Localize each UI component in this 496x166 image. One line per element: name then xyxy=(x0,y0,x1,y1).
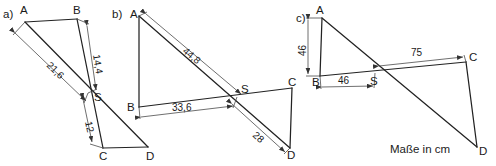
case-b-dim-sd: 28 xyxy=(251,129,267,145)
case-c-label: c) xyxy=(296,12,306,24)
case-c-dim-bs: 46 xyxy=(338,75,350,86)
case-a-segment-cd xyxy=(103,147,148,148)
diagram-canvas: a) A B S C D 21,6 14,4 12 b xyxy=(0,0,496,166)
case-b-point-d: D xyxy=(287,149,295,161)
case-a-dim-as: 21,6 xyxy=(45,60,67,82)
case-b-dim-as: 44,8 xyxy=(181,45,203,66)
case-c-dim-sc: 75 xyxy=(411,47,423,58)
case-a-point-b: B xyxy=(73,4,81,16)
case-a-point-a: A xyxy=(20,4,28,16)
case-b-ext-a xyxy=(139,12,147,16)
case-c-dim-line-sc xyxy=(379,57,463,66)
case-c-point-b: B xyxy=(312,76,320,88)
case-a-ext-c xyxy=(90,144,103,148)
case-c-group: c) A B S C D 46 46 75 xyxy=(296,4,487,157)
case-c-ext-b2 xyxy=(320,76,321,89)
case-c-point-a: A xyxy=(316,4,324,16)
case-a-label: a) xyxy=(3,8,13,20)
case-a-dim-sc: 12 xyxy=(83,120,96,134)
case-b-label: b) xyxy=(112,8,122,20)
case-b-ext-b xyxy=(139,107,140,119)
case-b-segment-bc-through-s xyxy=(139,88,292,107)
case-b-segment-cd xyxy=(290,88,292,148)
case-a-ext-a xyxy=(13,22,25,35)
case-b-point-s: S xyxy=(241,83,249,95)
case-a-ext-s1 xyxy=(84,93,88,103)
case-a-group: a) A B S C D 21,6 14,4 12 xyxy=(3,4,154,162)
case-b-point-b: B xyxy=(127,101,135,113)
units-note: Maße in cm xyxy=(390,143,450,155)
case-b-point-a: A xyxy=(130,8,138,20)
case-a-point-d: D xyxy=(146,150,154,162)
case-c-segment-ab xyxy=(320,18,322,76)
case-b-point-c: C xyxy=(288,76,296,88)
case-c-dim-ab: 46 xyxy=(297,44,308,56)
geometry-figure-sheet: a) A B S C D 21,6 14,4 12 b xyxy=(0,0,496,166)
case-a-point-c: C xyxy=(99,150,107,162)
case-b-dim-line-sd xyxy=(232,104,285,152)
case-c-point-s: S xyxy=(370,75,378,87)
case-c-ext-c xyxy=(464,55,466,62)
case-c-segment-cd xyxy=(466,62,477,147)
case-c-point-c: C xyxy=(469,51,477,63)
case-a-point-s: S xyxy=(94,91,102,103)
case-c-point-d: D xyxy=(479,145,487,157)
case-b-segment-ad-through-s xyxy=(139,16,290,148)
case-a-ext-b xyxy=(77,19,89,24)
case-c-dim-line-bs xyxy=(322,86,373,87)
case-a-segment-ab xyxy=(25,19,77,22)
case-b-dim-bs: 33,6 xyxy=(172,102,192,113)
